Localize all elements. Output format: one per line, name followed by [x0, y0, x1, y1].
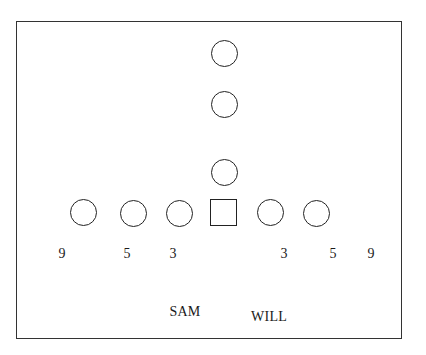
technique-number: 3 — [281, 247, 288, 261]
line-player-circle — [120, 200, 147, 227]
technique-number: 3 — [170, 247, 177, 261]
line-player-circle — [257, 199, 284, 226]
backfield-player-circle — [211, 40, 238, 67]
will-label: WILL — [251, 310, 287, 324]
technique-number: 5 — [124, 247, 131, 261]
line-player-circle — [166, 200, 193, 227]
backfield-player-circle — [211, 159, 238, 186]
diagram-frame — [16, 21, 402, 339]
line-player-circle — [70, 199, 97, 226]
technique-number: 9 — [368, 247, 375, 261]
sam-label: SAM — [170, 305, 201, 319]
center-square — [210, 199, 237, 226]
technique-number: 9 — [59, 247, 66, 261]
line-player-circle — [303, 200, 330, 227]
backfield-player-circle — [211, 91, 238, 118]
technique-number: 5 — [330, 247, 337, 261]
